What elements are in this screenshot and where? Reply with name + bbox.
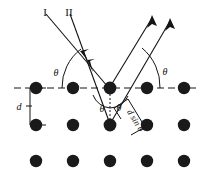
atom-r1-c4 xyxy=(141,82,153,94)
label-d-spacing: d xyxy=(17,101,23,112)
atom-r3-c3 xyxy=(104,155,116,167)
label-theta-reflected-right: θ xyxy=(163,66,168,77)
reflected-ray-one xyxy=(110,18,152,87)
atom-r2-c1 xyxy=(30,119,42,131)
bragg-diagram-canvas: I II θ θ θ θ d d sin θ xyxy=(0,0,202,179)
label-theta-center-right: θ xyxy=(117,102,122,113)
atom-r2-c5 xyxy=(178,119,190,131)
label-ray-one: I xyxy=(43,6,47,18)
atom-r2-c2 xyxy=(67,119,79,131)
label-theta-center-left: θ xyxy=(100,103,105,114)
reflected-ray-one-arrowhead xyxy=(147,15,157,28)
atom-r3-c2 xyxy=(67,155,79,167)
atom-r3-c1 xyxy=(30,155,42,167)
atom-r2-c3-scatter-center xyxy=(104,119,117,132)
atom-r1-c1 xyxy=(30,82,42,94)
atom-r1-c2 xyxy=(67,82,79,94)
atom-r1-c5 xyxy=(178,82,190,94)
label-theta-incident-left: θ xyxy=(54,67,59,78)
atom-r1-c3-scatter-center xyxy=(104,82,117,95)
label-ray-two: II xyxy=(65,6,73,18)
bragg-diffraction-figure: I II θ θ θ θ d d sin θ xyxy=(0,0,202,179)
reflected-ray-two-arrowhead xyxy=(165,18,175,31)
atom-r3-c4 xyxy=(141,155,153,167)
atom-r3-c5 xyxy=(178,155,190,167)
